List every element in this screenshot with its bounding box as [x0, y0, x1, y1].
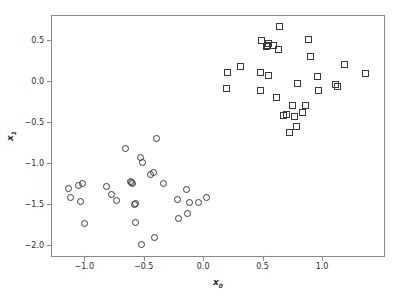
data-point-square: [291, 113, 298, 120]
data-point-square: [302, 102, 309, 109]
data-point-square: [273, 94, 280, 101]
x-tick-mark: [322, 257, 323, 261]
data-point-circle: [195, 199, 202, 206]
plot-axes-area: [51, 15, 385, 257]
data-point-circle: [138, 241, 145, 248]
data-point-square: [293, 123, 300, 130]
data-point-square: [341, 61, 348, 68]
data-point-square: [289, 102, 296, 109]
x-tick-label: −1.0: [75, 262, 94, 271]
x-tick-mark: [144, 257, 145, 261]
data-point-circle: [81, 220, 88, 227]
y-tick-mark: [47, 163, 51, 164]
data-point-square: [286, 129, 293, 136]
data-point-circle: [139, 159, 146, 166]
data-points-layer: [52, 16, 384, 256]
data-point-circle: [203, 194, 210, 201]
y-tick-mark: [47, 122, 51, 123]
data-point-square: [237, 63, 244, 70]
data-point-square: [275, 46, 282, 53]
y-tick-mark: [47, 81, 51, 82]
data-point-square: [307, 53, 314, 60]
y-tick-label: −2.0: [25, 241, 44, 250]
axis-label-subscript: 0: [219, 282, 223, 289]
y-tick-label: 0.5: [31, 35, 44, 44]
data-point-circle: [122, 145, 129, 152]
data-point-square: [334, 83, 341, 90]
y-tick-mark: [47, 40, 51, 41]
data-point-circle: [175, 215, 182, 222]
data-point-circle: [65, 185, 72, 192]
data-point-square: [224, 69, 231, 76]
data-point-circle: [186, 199, 193, 206]
x-tick-mark: [84, 257, 85, 261]
data-point-square: [305, 36, 312, 43]
data-point-square: [283, 111, 290, 118]
data-point-circle: [183, 186, 190, 193]
y-tick-label: −0.5: [25, 118, 44, 127]
y-axis-label: x1: [5, 131, 17, 141]
y-tick-mark: [47, 245, 51, 246]
data-point-circle: [160, 180, 167, 187]
data-point-circle: [150, 169, 157, 176]
data-point-circle: [113, 197, 120, 204]
y-tick-label: −1.5: [25, 200, 44, 209]
data-point-square: [257, 69, 264, 76]
data-point-circle: [77, 198, 84, 205]
scatter-plot-figure: −1.0−0.50.00.51.0 0.50.0−0.5−1.0−1.5−2.0…: [0, 0, 397, 303]
data-point-circle: [132, 200, 139, 207]
data-point-circle: [151, 234, 158, 241]
data-point-square: [299, 109, 306, 116]
data-point-square: [314, 73, 321, 80]
data-point-circle: [67, 194, 74, 201]
data-point-circle: [132, 219, 139, 226]
data-point-square: [294, 80, 301, 87]
data-point-circle: [103, 183, 110, 190]
data-point-circle: [153, 135, 160, 142]
x-tick-mark: [203, 257, 204, 261]
data-point-square: [362, 70, 369, 77]
data-point-circle: [174, 196, 181, 203]
axis-label-base: x: [5, 135, 15, 141]
data-point-square: [257, 87, 264, 94]
x-tick-label: 0.0: [197, 262, 210, 271]
x-tick-label: −0.5: [134, 262, 153, 271]
data-point-square: [265, 72, 272, 79]
x-axis-label: x0: [213, 277, 223, 289]
y-tick-mark: [47, 204, 51, 205]
x-tick-label: 0.5: [256, 262, 269, 271]
x-tick-label: 1.0: [316, 262, 329, 271]
axis-label-subscript: 1: [10, 131, 17, 135]
y-tick-label: 0.0: [31, 76, 44, 85]
data-point-circle: [79, 180, 86, 187]
data-point-circle: [184, 210, 191, 217]
data-point-square: [315, 87, 322, 94]
x-tick-mark: [263, 257, 264, 261]
data-point-square: [223, 85, 230, 92]
data-point-square: [276, 23, 283, 30]
y-tick-label: −1.0: [25, 159, 44, 168]
